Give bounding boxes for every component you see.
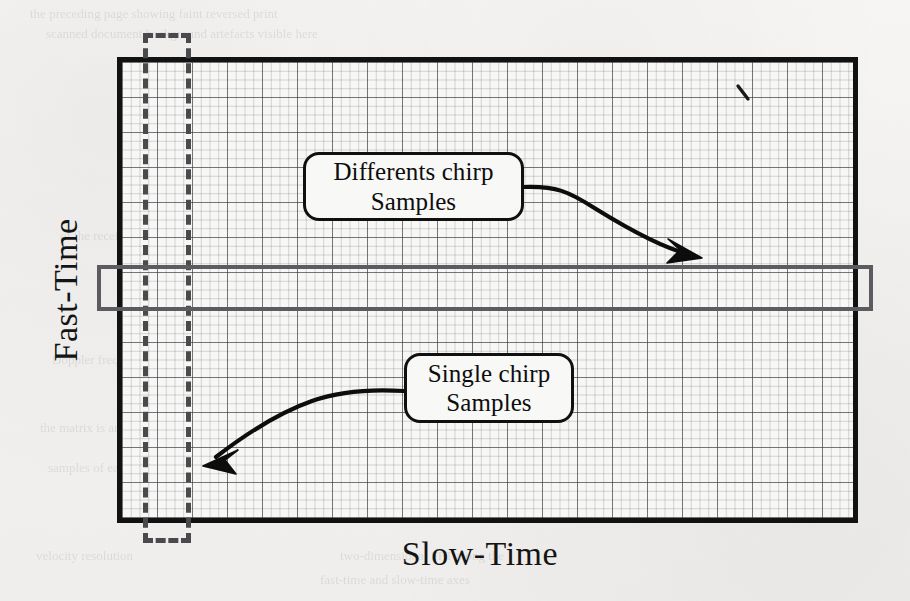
- callout-single-line1: Single chirp: [428, 359, 551, 389]
- callout-differents-line1: Differents chirp: [333, 157, 493, 187]
- axis-label-slow-time: Slow-Time: [330, 535, 630, 573]
- callout-differents-chirp[interactable]: Differents chirp Samples: [303, 152, 524, 221]
- fast-time-row-selection[interactable]: [97, 265, 873, 311]
- axis-label-fast-time: Fast-Time: [47, 180, 85, 400]
- callout-differents-line2: Samples: [371, 187, 456, 217]
- figure-canvas: the preceding page showing faint reverse…: [0, 0, 910, 601]
- callout-single-line2: Samples: [446, 388, 531, 418]
- callout-single-chirp[interactable]: Single chirp Samples: [404, 353, 574, 423]
